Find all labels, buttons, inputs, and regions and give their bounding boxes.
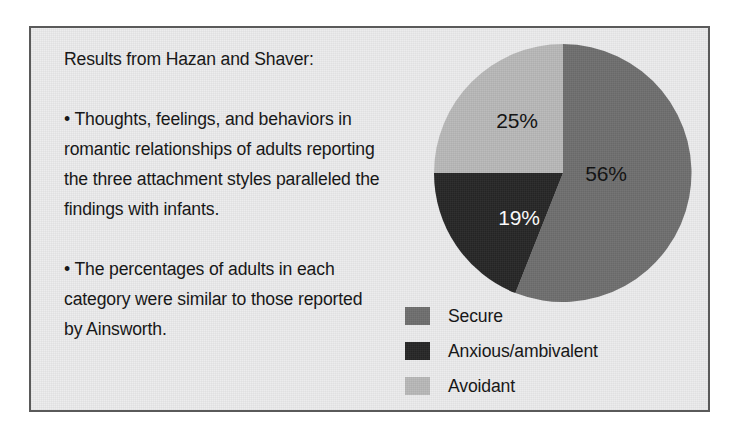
legend-label-secure: Secure: [448, 303, 503, 329]
legend-swatch-avoidant: [405, 377, 430, 395]
legend-item-avoidant: Avoidant: [405, 374, 710, 409]
pie-chart: 56% 19% 25%: [434, 44, 692, 302]
page-canvas: Results from Hazan and Shaver: • Thought…: [0, 0, 740, 439]
text-column: Results from Hazan and Shaver: • Thought…: [64, 44, 382, 344]
pie-chart-area: 56% 19% 25% Secure Anxious/ambivalent Av…: [405, 28, 710, 410]
chart-legend: Secure Anxious/ambivalent Avoidant: [405, 304, 710, 409]
legend-swatch-secure: [405, 307, 430, 325]
legend-label-avoidant: Avoidant: [448, 373, 515, 399]
slide-frame: Results from Hazan and Shaver: • Thought…: [29, 26, 710, 412]
pie-label-avoidant: 25%: [496, 109, 537, 132]
bullet-item-2: • The percentages of adults in each cate…: [64, 254, 382, 344]
bullet-item-1: • Thoughts, feelings, and behaviors in r…: [64, 104, 382, 224]
legend-item-secure: Secure: [405, 304, 710, 339]
pie-label-secure: 56%: [585, 162, 626, 185]
legend-label-anxious-ambivalent: Anxious/ambivalent: [448, 338, 598, 364]
pie-label-anxious-ambivalent: 19%: [498, 206, 539, 229]
slide-heading: Results from Hazan and Shaver:: [64, 44, 382, 74]
legend-item-anxious-ambivalent: Anxious/ambivalent: [405, 339, 710, 374]
legend-swatch-anxious-ambivalent: [405, 342, 430, 360]
